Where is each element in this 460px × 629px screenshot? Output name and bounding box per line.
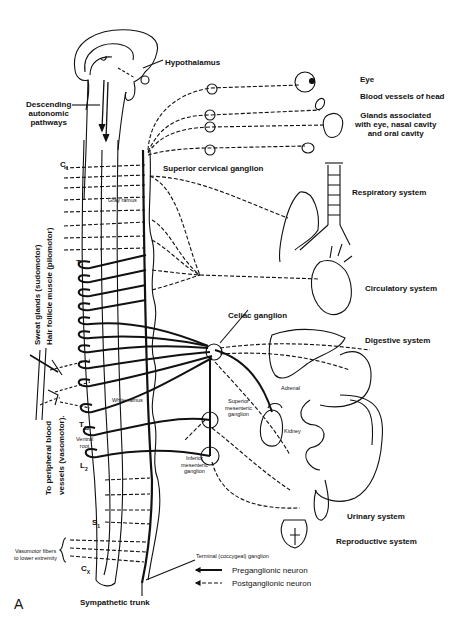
segment-c1: C1 [60, 160, 69, 171]
label-inferior-mesenteric-ganglion: Inferior mesenteric ganglion [181, 455, 208, 475]
brain-illustration [74, 30, 157, 200]
label-ventral-root: Ventral root [76, 436, 93, 449]
label-celiac-ganglion: Celiac ganglion [228, 311, 287, 320]
segment-l2: L2 [80, 461, 88, 472]
label-kidney: Kidney [284, 428, 301, 435]
label-gray-ramus: Gray ramus [108, 197, 137, 204]
segment-s1: S1 [92, 518, 100, 529]
panel-label: A [14, 596, 23, 612]
segment-cx: CX [81, 564, 90, 575]
label-superior-mesenteric-ganglion: Superior mesenteric ganglion [225, 398, 252, 418]
label-hair-follicle: Hair follicle muscle (pilomotor) [45, 228, 55, 345]
legend-postganglionic: Postganglionic neuron [232, 579, 311, 588]
label-target-urinary: Urinary system [347, 512, 405, 521]
label-target-digestive: Digestive system [365, 336, 430, 345]
label-peripheral-vessels-1: To peripheral blood [44, 421, 54, 495]
label-vasomotor-lower: Vasomotor fibers to lower extremity [14, 548, 57, 561]
segment-t1: T1 [76, 258, 84, 269]
label-target-respiratory: Respiratory system [352, 188, 426, 197]
segment-t12: T12 [79, 420, 89, 431]
label-target-eye: Eye [360, 75, 374, 84]
label-target-reproductive: Reproductive system [336, 537, 417, 546]
label-descending-pathways: Descending autonomic pathways [26, 100, 71, 127]
label-hypothalamus: Hypothalamus [165, 58, 220, 67]
label-sweat-glands: Sweat glands (sudomotor) [33, 245, 43, 345]
label-target-blood-vessels-head: Blood vessels of head [360, 92, 444, 101]
label-target-glands: Glands associated with eye, nasal cavity… [355, 111, 436, 138]
label-peripheral-vessels-2: vessels (vasomotor). [57, 415, 67, 495]
label-sympathetic-trunk: Sympathetic trunk [80, 598, 150, 607]
label-terminal-ganglion: Terminal (coccygeal) ganglion [196, 553, 269, 560]
label-adrenal: Adrenal [281, 385, 300, 392]
label-target-circulatory: Circulatory system [365, 284, 437, 293]
label-superior-cervical-ganglion: Superior cervical ganglion [163, 164, 263, 173]
legend-preganglionic: Preganglionic neuron [232, 566, 308, 575]
label-white-ramus: White ramus [112, 397, 143, 404]
